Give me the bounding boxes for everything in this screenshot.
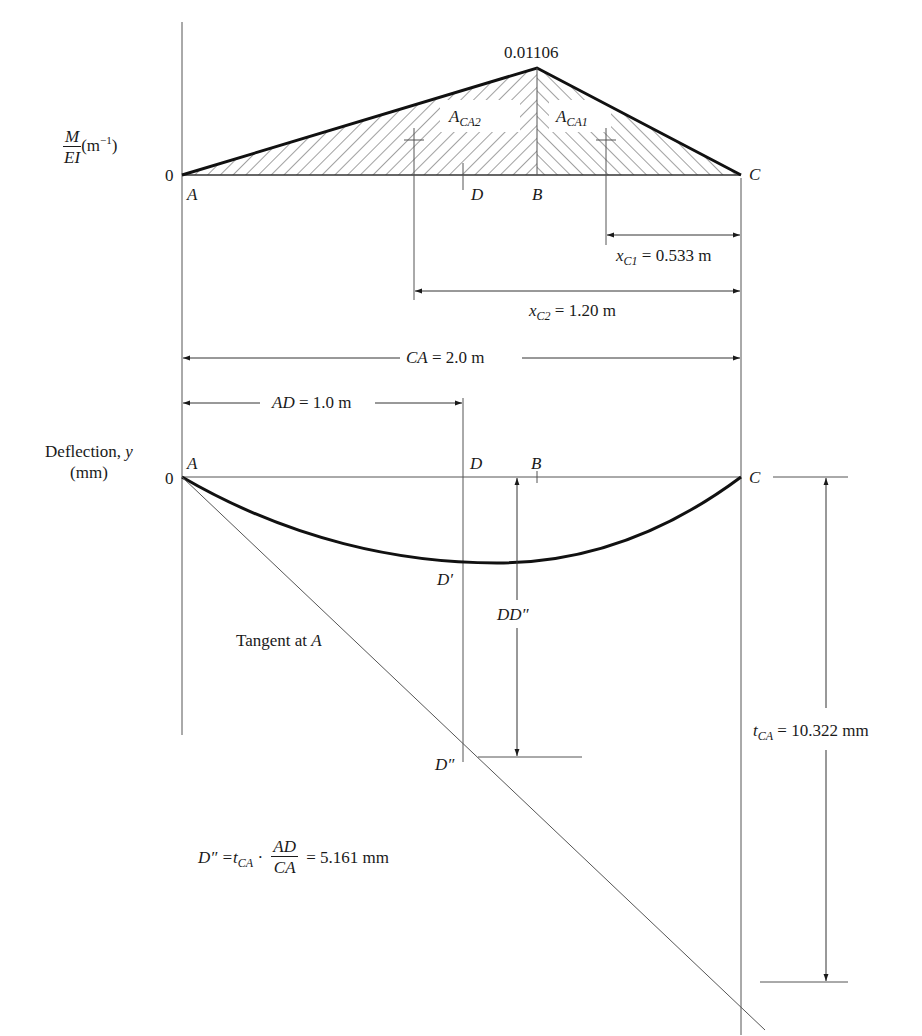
tangent-at-a-line xyxy=(182,477,765,1030)
ad-dimension-label: AD = 1.0 m xyxy=(272,394,351,411)
xc2-label: xC2 = 1.20 m xyxy=(529,302,616,319)
formula-rhs: = 5.161 mm xyxy=(302,849,389,866)
deflection-zero-label: 0 xyxy=(165,470,174,487)
point-d-double-prime-label: D″ xyxy=(435,756,454,773)
dd-formula: D″ = tCA · AD CA = 5.161 mm xyxy=(198,838,389,876)
diagram-canvas xyxy=(0,0,922,1036)
area-ca1-label: ACA1 xyxy=(556,108,588,125)
point-a-label: A xyxy=(187,186,197,203)
xc1-label: xC1 = 0.533 m xyxy=(616,247,711,264)
deflection-curve xyxy=(182,477,741,563)
point-b-label: B xyxy=(532,186,542,203)
moment-axis-den: EI xyxy=(63,147,81,166)
point-c-label: C xyxy=(749,166,760,183)
area-ca2-label: ACA2 xyxy=(449,108,481,125)
deflection-point-b-label: B xyxy=(531,455,541,472)
dd-double-prime-label: DD″ xyxy=(497,606,529,623)
peak-value-label: 0.01106 xyxy=(504,44,559,61)
point-d-label: D xyxy=(471,186,483,203)
moment-zero-label: 0 xyxy=(165,167,174,184)
deflection-diagram xyxy=(182,398,848,1030)
tangent-at-a-label: Tangent at A xyxy=(236,632,322,649)
deflection-point-a-label: A xyxy=(187,455,197,472)
deflection-point-d-label: D xyxy=(470,455,482,472)
ca-dimension-label: CA = 2.0 m xyxy=(406,349,485,366)
moment-axis-label: M EI (m−1) xyxy=(63,128,117,166)
formula-lhs: D″ = xyxy=(198,849,233,866)
moment-axis-unit: (m−1) xyxy=(81,136,117,155)
moment-diagram xyxy=(182,68,741,300)
formula-t: tCA xyxy=(233,849,253,866)
deflection-point-c-label: C xyxy=(749,469,760,486)
formula-dot: · xyxy=(253,849,267,866)
tca-label: tCA = 10.322 mm xyxy=(753,722,869,739)
point-d-prime-label: D′ xyxy=(437,571,453,588)
moment-axis-num: M xyxy=(63,128,81,147)
deflection-axis-label: Deflection, y (mm) xyxy=(31,441,147,484)
formula-fraction: AD CA xyxy=(271,838,298,876)
